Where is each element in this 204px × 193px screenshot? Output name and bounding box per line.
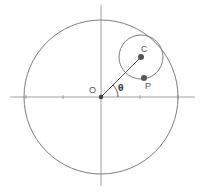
label-theta: θ [118, 84, 124, 93]
center-point-C [138, 54, 144, 60]
diagram-canvas: O C P θ [0, 0, 204, 193]
label-origin: O [89, 85, 96, 95]
origin-point [99, 95, 103, 99]
label-P: P [145, 81, 151, 91]
label-C: C [141, 44, 148, 54]
